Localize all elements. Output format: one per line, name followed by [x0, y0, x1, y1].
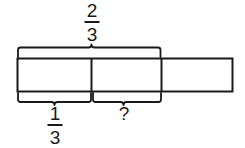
label-one-third: 1 3: [48, 104, 63, 147]
fraction-tape-diagram: 2 3 1 3 ?: [0, 0, 245, 148]
one-third-denominator: 3: [49, 127, 62, 147]
diagram-canvas: [0, 0, 245, 148]
label-two-thirds: 2 3: [85, 1, 100, 44]
label-unknown-question-mark: ?: [119, 104, 130, 123]
tape-bar-outline: [18, 59, 233, 92]
two-thirds-numerator: 2: [86, 1, 99, 21]
one-third-numerator: 1: [49, 104, 62, 124]
two-thirds-brace-icon: [18, 45, 161, 58]
two-thirds-denominator: 3: [86, 24, 99, 44]
